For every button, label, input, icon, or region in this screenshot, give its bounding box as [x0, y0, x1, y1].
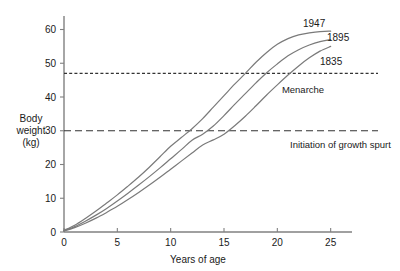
x-tick-label: 20 — [272, 237, 284, 248]
growth-spurt-annotation-label: Initiation of growth spurt — [290, 139, 391, 150]
reference-lines-group — [64, 73, 378, 130]
x-axis-ticks: 0510152025 — [61, 228, 336, 248]
chart-canvas: 0102030405060 0510152025 1947 1895 1835 … — [0, 0, 400, 271]
y-tick-label: 60 — [45, 24, 57, 35]
y-tick-label: 40 — [45, 92, 57, 103]
menarche-annotation-label: Menarche — [282, 84, 324, 95]
growth-chart: 0102030405060 0510152025 1947 1895 1835 … — [0, 0, 400, 271]
axes-group — [64, 16, 352, 232]
y-axis-title-line-2: weight — [16, 125, 46, 136]
x-tick-label: 15 — [218, 237, 230, 248]
y-tick-label: 50 — [45, 58, 57, 69]
y-tick-label: 30 — [45, 125, 57, 136]
y-axis-title-line-1: Body — [20, 113, 43, 124]
x-tick-label: 5 — [115, 237, 121, 248]
x-tick-label: 0 — [61, 237, 67, 248]
y-tick-label: 20 — [45, 159, 57, 170]
y-axis-title: Body weight (kg) — [16, 113, 46, 148]
series-line-1895 — [64, 40, 331, 231]
series-label-1895: 1895 — [327, 32, 350, 43]
series-label-1947: 1947 — [303, 18, 326, 29]
y-tick-label: 10 — [45, 193, 57, 204]
x-tick-label: 10 — [165, 237, 177, 248]
series-label-1835: 1835 — [320, 56, 343, 67]
y-tick-label: 0 — [50, 227, 56, 238]
y-axis-title-line-3: (kg) — [22, 137, 39, 148]
x-tick-label: 25 — [325, 237, 337, 248]
x-axis-title: Years of age — [170, 254, 226, 265]
y-axis-ticks: 0102030405060 — [45, 24, 64, 238]
